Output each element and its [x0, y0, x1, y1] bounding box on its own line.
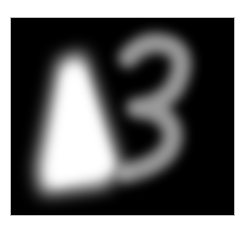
blurred-glyphs-image	[11, 18, 235, 216]
digit-three-shape	[126, 43, 182, 173]
image-frame	[10, 17, 235, 216]
